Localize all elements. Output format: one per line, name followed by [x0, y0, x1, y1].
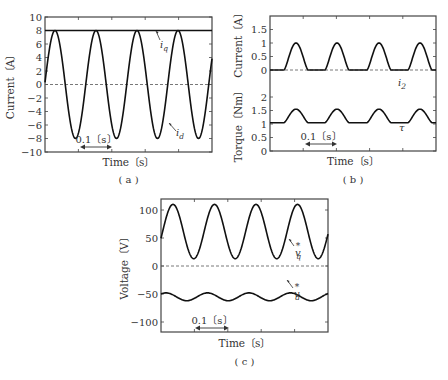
caption-b: ( b )	[343, 174, 364, 185]
y-tick-label: 0.5	[251, 132, 267, 143]
x-axis-label: Time〔s〕	[219, 337, 271, 349]
series-label: τ	[399, 122, 405, 133]
y-axis-label: Voltage〔V〕	[118, 232, 130, 300]
time-scale-label: 0.1〔s〕	[300, 131, 341, 142]
x-axis-label: Time〔s〕	[103, 156, 155, 168]
y-tick-label: −100	[131, 317, 158, 328]
vd-curve	[161, 293, 328, 301]
y-tick-label: 4	[36, 52, 42, 63]
vq-curve	[161, 204, 328, 258]
figure: 1086420−2−4−6−8−10iqid0.1〔s〕Current〔A〕Ti…	[0, 0, 448, 380]
y-tick-label: 0.5	[251, 51, 267, 62]
panel-b: 1.510.5021.510.50i2τ0.1〔s〕Current〔A〕Torq…	[232, 8, 436, 185]
caption-c: ( c )	[235, 356, 255, 367]
y-tick-label: 50	[145, 233, 158, 244]
y-tick-label: 10	[29, 12, 42, 23]
time-scale-label: 0.1〔s〕	[191, 315, 232, 326]
series-label: v*q	[295, 241, 301, 261]
y-axis-label: Current〔A〕	[4, 50, 16, 120]
y-axis-label-torque: Torque〔Nm〕	[232, 86, 244, 162]
y-tick-label: 6	[36, 39, 42, 50]
series-label: v*d	[294, 282, 300, 302]
y-tick-label: 1.5	[251, 24, 267, 35]
caption-a: ( a )	[118, 174, 138, 185]
torque-curve	[270, 109, 436, 123]
series-label: id	[176, 127, 184, 141]
y-tick-label: 1	[261, 119, 267, 130]
y-tick-label: −2	[27, 93, 42, 104]
time-scale-label: 0.1〔s〕	[75, 134, 116, 145]
y-tick-label: 8	[36, 25, 42, 36]
y-tick-label: 2	[261, 92, 267, 103]
y-tick-label: 100	[139, 205, 158, 216]
series-label: iq	[160, 39, 168, 53]
i2-curve	[270, 43, 436, 70]
y-tick-label: 0	[261, 146, 267, 157]
y-tick-label: 2	[36, 66, 42, 77]
y-tick-label: −8	[27, 133, 42, 144]
panel-a: 1086420−2−4−6−8−10iqid0.1〔s〕Current〔A〕Ti…	[4, 12, 212, 186]
y-tick-label: 0	[261, 65, 267, 76]
plot-frame	[161, 199, 328, 332]
y-tick-label: 1	[261, 38, 267, 49]
y-tick-label: −50	[137, 289, 158, 300]
y-tick-label: 1.5	[251, 105, 267, 116]
y-tick-label: 0	[36, 79, 42, 90]
y-tick-label: −4	[27, 106, 42, 117]
y-tick-label: −10	[21, 147, 42, 158]
series-label: i2	[398, 77, 406, 91]
plot-frame	[270, 16, 436, 151]
y-tick-label: 0	[152, 261, 158, 272]
y-axis-label-current: Current〔A〕	[232, 8, 244, 78]
y-tick-label: −6	[27, 120, 42, 131]
x-axis-label: Time〔s〕	[327, 155, 379, 167]
panel-c: 100500−50−100v*qv*d0.1〔s〕Voltage〔V〕Time〔…	[118, 199, 328, 367]
